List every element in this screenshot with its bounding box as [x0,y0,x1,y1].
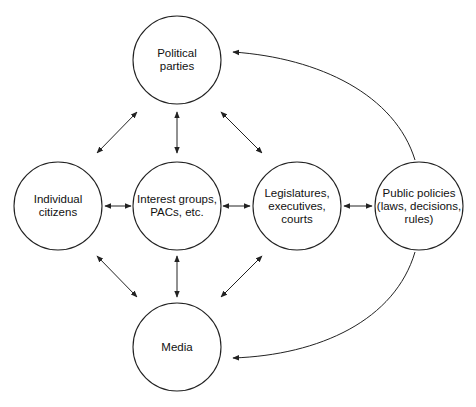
label-interest-groups: Interest groups, PACs, etc. [129,193,225,219]
label-individual-citizens: Individual citizens [10,193,106,219]
label-media: Media [129,341,225,354]
arrow-legislatures-parties [221,112,262,153]
arrow-citizens-media [97,256,137,297]
label-political-parties: Political parties [129,47,225,73]
label-legislatures: Legislatures, executives, courts [249,187,345,226]
arrow-citizens-parties [97,112,137,153]
arrow-policies-parties [233,52,415,160]
label-public-policies: Public policies (laws, decisions, rules) [371,187,467,226]
arrow-legislatures-media [221,256,262,297]
arrow-policies-media [233,252,415,358]
